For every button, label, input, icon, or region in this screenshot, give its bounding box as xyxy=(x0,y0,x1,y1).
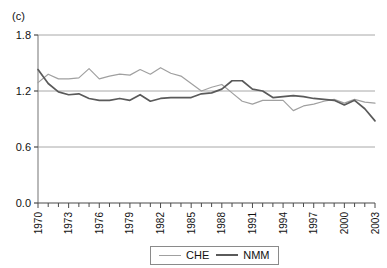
x-axis-tick-labels: 1970197319761979198219851988199119941997… xyxy=(33,212,381,235)
legend-label-che: CHE xyxy=(186,249,209,261)
x-tick-label: 1988 xyxy=(216,212,227,235)
x-tick-label: 1973 xyxy=(63,212,74,235)
x-tick-label: 1976 xyxy=(94,212,105,235)
gridlines xyxy=(38,35,375,147)
x-tick-label: 1991 xyxy=(247,212,258,235)
x-tick-label: 1994 xyxy=(278,212,289,235)
legend-item-che[interactable]: CHE xyxy=(159,249,209,261)
chart-plot-area: 0.00.61.21.8 197019731976197919821985198… xyxy=(0,0,387,268)
x-tick-label: 1985 xyxy=(186,212,197,235)
x-tick-label: 1970 xyxy=(33,212,44,235)
legend-label-nmm: NMM xyxy=(243,249,269,261)
y-tick-label: 1.8 xyxy=(16,29,31,41)
x-tick-label: 1979 xyxy=(124,212,135,235)
y-axis-tick-labels: 0.00.61.21.8 xyxy=(16,29,31,209)
chart-figure: (c) 0.00.61.21.8 19701973197619791982198… xyxy=(0,0,387,268)
chart-legend: CHE NMM xyxy=(150,246,279,265)
x-tick-label: 2000 xyxy=(339,212,350,235)
y-tick-label: 0.0 xyxy=(16,197,31,209)
axis-lines xyxy=(38,35,375,203)
y-tick-label: 1.2 xyxy=(16,85,31,97)
y-tick-label: 0.6 xyxy=(16,141,31,153)
x-tick-label: 1982 xyxy=(155,212,166,235)
legend-swatch-nmm-icon xyxy=(216,254,238,256)
series-line-che xyxy=(38,68,375,111)
x-tick-label: 2003 xyxy=(370,212,381,235)
x-tick-label: 1997 xyxy=(308,212,319,235)
series-line-nmm xyxy=(38,70,375,121)
data-series-lines xyxy=(38,68,375,121)
legend-item-nmm[interactable]: NMM xyxy=(216,249,269,261)
legend-swatch-che-icon xyxy=(159,255,181,256)
x-axis-ticks xyxy=(38,203,375,208)
